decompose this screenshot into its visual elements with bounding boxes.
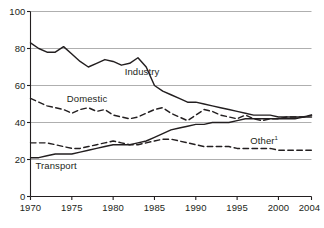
series-label-industry: Industry bbox=[125, 66, 160, 77]
y-tick-label: 80 bbox=[0, 43, 26, 54]
y-tick-label: 100 bbox=[0, 6, 26, 17]
line-chart: 020406080100 197019751980198519901995200… bbox=[0, 0, 324, 228]
x-tick-label: 1995 bbox=[220, 202, 254, 213]
series-label-text: Other bbox=[250, 135, 274, 146]
footnote-marker: 1 bbox=[275, 135, 278, 141]
series-line-industry bbox=[31, 43, 312, 117]
x-tick-label: 1975 bbox=[55, 202, 89, 213]
series-label-text: Industry bbox=[125, 66, 160, 77]
series-label-transport: Transport bbox=[35, 160, 76, 171]
series-label-domestic: Domestic bbox=[67, 93, 107, 104]
x-tick-label: 2000 bbox=[261, 202, 295, 213]
x-tick-label: 2004 bbox=[293, 202, 324, 213]
series-label-text: Transport bbox=[35, 160, 76, 171]
x-tick-label: 1985 bbox=[137, 202, 171, 213]
x-tick-label: 1980 bbox=[96, 202, 130, 213]
chart-canvas bbox=[0, 0, 324, 228]
y-tick-label: 20 bbox=[0, 154, 26, 165]
x-tick-label: 1970 bbox=[14, 202, 48, 213]
x-tick-label: 1990 bbox=[179, 202, 213, 213]
y-tick-label: 60 bbox=[0, 80, 26, 91]
series-label-text: Domestic bbox=[67, 93, 107, 104]
y-tick-label: 40 bbox=[0, 117, 26, 128]
y-tick-label: 0 bbox=[0, 191, 26, 202]
series-label-other: Other1 bbox=[250, 135, 278, 146]
